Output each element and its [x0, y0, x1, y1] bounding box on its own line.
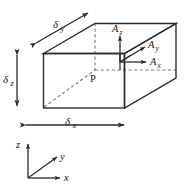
front-face	[44, 54, 125, 109]
dimension-delta-z: δ z	[3, 55, 17, 106]
axis-y-label: y	[59, 151, 65, 162]
delta-z-subscript: z	[10, 78, 15, 88]
vector-az-label: A	[111, 23, 119, 34]
control-volume-diagram: δ y δ z δ x A z A	[0, 0, 188, 185]
point-p-label: P	[90, 73, 96, 84]
delta-x-label: δ	[65, 115, 71, 127]
vector-ay-label: A	[147, 39, 155, 50]
delta-y-label: δ	[53, 18, 59, 30]
vector-az-subscript: z	[119, 28, 123, 37]
vector-ax-subscript: x	[157, 61, 162, 70]
delta-y-subscript: y	[60, 23, 65, 33]
vector-ax-label: A	[149, 56, 157, 67]
axis-x-label: x	[63, 172, 69, 183]
dimension-delta-y: δ y	[36, 13, 88, 43]
vector-ay-subscript: y	[155, 44, 160, 53]
axis-z-label: z	[15, 139, 20, 150]
figure-canvas: δ y δ z δ x A z A	[0, 0, 188, 185]
dimension-delta-x: δ x	[26, 115, 124, 130]
delta-z-label: δ	[3, 73, 9, 85]
hidden-edge-diagonal	[44, 70, 95, 107]
delta-x-subscript: x	[72, 120, 77, 130]
axes-triad: z y x	[15, 139, 69, 183]
axis-y-arrow	[28, 157, 57, 178]
